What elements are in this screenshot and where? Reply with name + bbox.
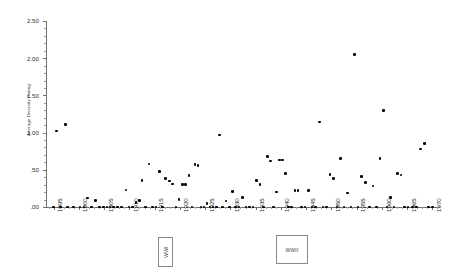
x-minor-tick	[170, 207, 171, 209]
x-minor-tick	[397, 207, 398, 209]
data-point	[131, 206, 134, 209]
data-point	[144, 206, 147, 209]
x-minor-tick	[49, 207, 50, 209]
x-minor-tick	[185, 207, 186, 209]
y-minor-tick	[44, 200, 46, 201]
data-point	[389, 196, 392, 199]
data-point	[171, 183, 174, 186]
y-axis-line	[46, 21, 47, 207]
x-tick-mark	[331, 207, 332, 210]
x-minor-tick	[296, 207, 297, 209]
data-point	[158, 170, 161, 173]
data-point	[284, 172, 287, 175]
y-minor-tick	[44, 162, 46, 163]
data-point	[411, 206, 414, 209]
data-point	[55, 130, 58, 133]
x-minor-tick	[225, 207, 226, 209]
y-tick-mark	[43, 58, 46, 59]
x-tick-label: 1950	[334, 198, 341, 212]
data-point	[135, 201, 138, 204]
x-minor-tick	[139, 207, 140, 209]
data-point	[419, 148, 422, 151]
x-tick-label: 1920	[182, 198, 189, 212]
y-tick-label: 1.50	[13, 92, 39, 99]
y-tick-mark	[43, 207, 46, 208]
annotation-label-wwi: WWI	[152, 246, 180, 259]
annotation-box-wwii: WWII	[276, 235, 308, 264]
x-minor-tick	[195, 207, 196, 209]
x-minor-tick	[422, 207, 423, 209]
x-minor-tick	[134, 207, 135, 209]
y-tick-label: 2.50	[13, 17, 39, 24]
data-point	[225, 200, 228, 203]
x-tick-mark	[281, 207, 282, 210]
data-point	[318, 121, 321, 124]
y-minor-tick	[44, 110, 46, 111]
x-tick-label: 1900	[81, 198, 88, 212]
y-minor-tick	[44, 103, 46, 104]
data-point	[164, 177, 167, 180]
data-point	[272, 206, 275, 209]
data-point	[116, 206, 119, 209]
y-axis-title: Average Diversity Rating	[26, 55, 38, 165]
x-minor-tick	[372, 207, 373, 209]
data-point	[178, 198, 181, 201]
y-minor-tick	[44, 192, 46, 193]
data-point	[396, 172, 399, 175]
data-point	[281, 159, 284, 162]
y-minor-tick	[44, 118, 46, 119]
y-tick-label: 2.00	[13, 55, 39, 62]
y-minor-tick	[44, 133, 46, 134]
data-point	[360, 175, 363, 178]
data-point	[259, 183, 262, 186]
data-point	[368, 206, 371, 209]
y-minor-tick	[44, 140, 46, 141]
y-tick-mark	[43, 21, 46, 22]
x-minor-tick	[94, 207, 95, 209]
scatter-chart-figure: Average Diversity Rating 2.502.001.501.0…	[0, 0, 455, 275]
y-minor-tick	[44, 88, 46, 89]
data-point	[339, 157, 342, 160]
data-point	[188, 174, 191, 177]
data-point	[215, 206, 218, 209]
y-minor-tick	[44, 73, 46, 74]
data-point	[423, 142, 426, 145]
x-tick-mark	[205, 207, 206, 210]
y-tick-label: .50	[13, 166, 39, 173]
data-point	[353, 53, 356, 56]
y-minor-tick	[44, 177, 46, 178]
data-point	[120, 206, 123, 209]
data-point	[218, 134, 221, 137]
y-minor-tick	[44, 36, 46, 37]
data-point	[141, 179, 144, 182]
x-minor-tick	[437, 207, 438, 209]
x-tick-label: 1955	[359, 198, 366, 212]
x-minor-tick	[124, 207, 125, 209]
data-point	[168, 180, 171, 183]
data-point	[138, 199, 141, 202]
data-point	[329, 173, 332, 176]
y-minor-tick	[44, 28, 46, 29]
x-minor-tick	[266, 207, 267, 209]
y-tick-mark	[43, 95, 46, 96]
data-point	[64, 123, 67, 126]
data-point	[427, 206, 430, 209]
x-minor-tick	[165, 207, 166, 209]
data-point	[228, 206, 231, 209]
data-point	[415, 206, 418, 209]
data-point	[275, 191, 278, 194]
data-point	[197, 164, 200, 167]
y-minor-tick	[44, 43, 46, 44]
data-point	[297, 189, 300, 192]
x-minor-tick	[240, 207, 241, 209]
x-tick-mark	[256, 207, 257, 210]
y-minor-tick	[44, 51, 46, 52]
y-minor-tick	[44, 81, 46, 82]
y-tick-label: 1.00	[13, 129, 39, 136]
annotation-label-wwii: WWII	[277, 236, 307, 263]
y-minor-tick	[44, 66, 46, 67]
data-point	[364, 181, 367, 184]
x-minor-tick	[276, 207, 277, 209]
data-point	[332, 177, 335, 180]
x-minor-tick	[64, 207, 65, 209]
